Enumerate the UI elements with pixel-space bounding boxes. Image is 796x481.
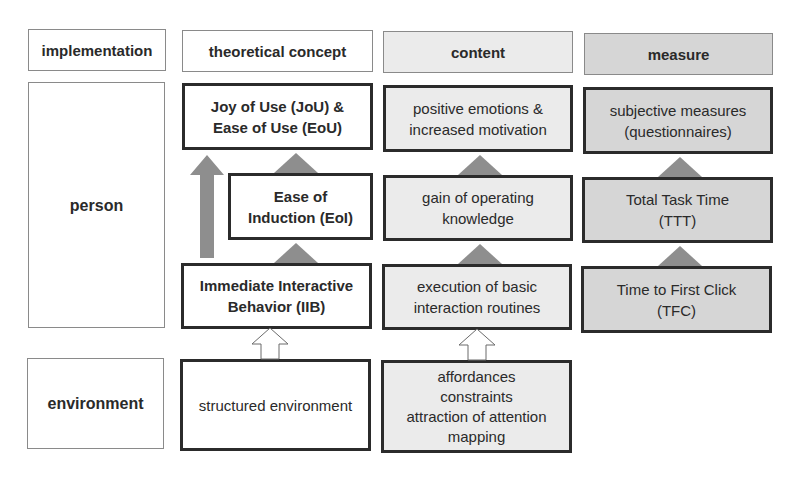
big-up-arrow-icon — [190, 155, 224, 259]
header-implementation: implementation — [28, 29, 166, 71]
hollow-up-arrow-structured-icon — [250, 328, 290, 360]
content-knowledge-label: gain of operating knowledge — [422, 187, 534, 229]
content-affordances: affordances constraints attraction of at… — [381, 360, 572, 453]
triangle-ttt-to-subjective-icon — [658, 157, 702, 177]
measure-subjective-label: subjective measures (questionnaires) — [610, 100, 747, 142]
row-label-person-text: person — [70, 195, 123, 216]
concept-structured-environment: structured environment — [180, 359, 371, 451]
concept-structured-environment-label: structured environment — [199, 395, 352, 416]
content-routines: execution of basic interaction routines — [382, 264, 572, 330]
triangle-tfc-to-ttt-icon — [658, 246, 702, 266]
concept-iib: Immediate Interactive Behavior (IIB) — [181, 263, 372, 329]
triangle-routines-to-knowledge-icon — [458, 244, 502, 264]
content-affordances-label: affordances constraints attraction of at… — [406, 367, 546, 447]
content-routines-label: execution of basic interaction routines — [414, 276, 541, 318]
concept-iib-label: Immediate Interactive Behavior (IIB) — [200, 275, 353, 317]
content-emotions: positive emotions & increased motivation — [383, 85, 573, 152]
row-label-environment: environment — [27, 358, 164, 449]
measure-ttt-label: Total Task Time (TTT) — [626, 189, 729, 231]
triangle-eoi-to-jou-icon — [274, 153, 318, 173]
concept-jou-eou-label: Joy of Use (JoU) & Ease of Use (EoU) — [211, 96, 344, 138]
content-emotions-label: positive emotions & increased motivation — [409, 98, 547, 140]
triangle-iib-to-eoi-icon — [274, 243, 318, 263]
header-theoretical-concept-label: theoretical concept — [209, 41, 347, 62]
measure-ttt: Total Task Time (TTT) — [582, 177, 773, 243]
concept-eoi: Ease of Induction (EoI) — [228, 173, 373, 240]
content-knowledge: gain of operating knowledge — [383, 175, 573, 241]
header-measure: measure — [584, 33, 773, 75]
row-label-environment-text: environment — [47, 393, 143, 414]
measure-tfc-label: Time to First Click (TFC) — [617, 279, 736, 321]
triangle-knowledge-to-emotions-icon — [458, 155, 502, 175]
header-theoretical-concept: theoretical concept — [182, 30, 373, 72]
header-content: content — [383, 31, 573, 73]
concept-jou-eou: Joy of Use (JoU) & Ease of Use (EoU) — [182, 83, 373, 150]
concept-eoi-label: Ease of Induction (EoI) — [248, 186, 353, 228]
header-content-label: content — [451, 42, 505, 63]
header-measure-label: measure — [648, 44, 710, 65]
measure-tfc: Time to First Click (TFC) — [581, 266, 772, 333]
header-implementation-label: implementation — [42, 40, 153, 61]
measure-subjective: subjective measures (questionnaires) — [583, 87, 773, 154]
row-label-person: person — [28, 82, 165, 328]
hollow-up-arrow-affordances-icon — [457, 329, 497, 361]
